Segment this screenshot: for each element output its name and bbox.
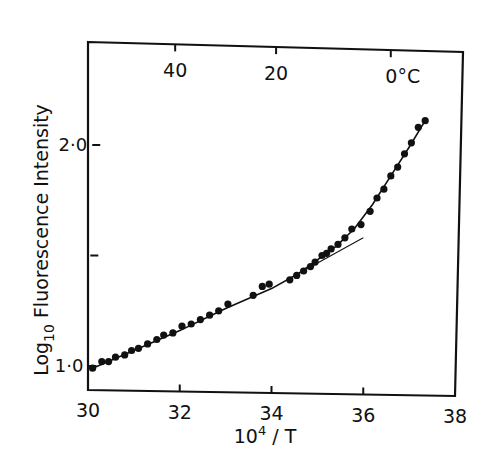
data-point [153,336,160,343]
data-point [215,307,222,314]
y-axis-label: Log10 Fluorescence Intensity [30,104,57,376]
data-point [367,208,374,215]
axis-tick-labels: 30323436381·02·0 [55,134,467,427]
data-point [401,150,408,157]
data-points [89,117,429,372]
data-point [300,267,307,274]
top-tick-label: 40 [163,59,187,81]
top-tick-label: 0°C [385,65,420,87]
data-point [266,281,273,288]
y-tick-label: 2·0 [59,134,88,155]
data-point [373,194,380,201]
top-tick-label: 20 [264,62,288,84]
data-point [89,365,96,372]
data-point [357,221,364,228]
fitted-curve [93,121,426,369]
data-point [380,186,387,193]
data-point [394,164,401,171]
data-point [387,172,394,179]
data-point [250,292,257,299]
fitted-lines [93,121,426,369]
x-tick-label: 34 [259,402,283,424]
data-point [224,301,231,308]
data-point [135,345,142,352]
data-point [341,234,348,241]
data-point [408,139,415,146]
chart: 30323436381·02·0 40200°C 104 / T Log10 F… [0,0,487,469]
data-point [348,225,355,232]
data-point [121,351,128,358]
data-point [112,354,119,361]
axis-ticks [88,44,390,394]
top-temperature-axis: 40200°C [163,59,420,87]
data-point [197,316,204,323]
data-point [422,117,429,124]
data-point [312,259,319,266]
data-point [178,323,185,330]
data-point [286,276,293,283]
data-point [188,320,195,327]
data-point [160,332,167,339]
data-point [98,358,105,365]
x-tick-label: 30 [76,399,100,421]
data-point [144,340,151,347]
x-tick-label: 36 [351,404,375,426]
x-tick-label: 38 [443,405,467,427]
data-point [105,358,112,365]
data-point [259,283,266,290]
x-axis-label: 104 / T [234,423,297,447]
data-point [334,241,341,248]
data-point [206,312,213,319]
data-point [128,347,135,354]
data-point [169,329,176,336]
data-point [293,272,300,279]
y-tick-label: 1·0 [55,355,84,376]
data-point [328,245,335,252]
x-tick-label: 32 [168,401,192,423]
data-point [415,124,422,131]
